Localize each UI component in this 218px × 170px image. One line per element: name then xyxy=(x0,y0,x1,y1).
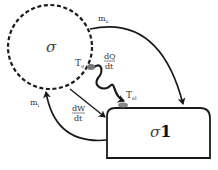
system-temperature-contact xyxy=(87,64,95,70)
svg-text:dQ: dQ xyxy=(104,52,116,61)
subsystem-index: 1 xyxy=(160,122,171,141)
heat-rate-label: dQ dt xyxy=(104,52,116,71)
thermodynamic-system-diagram: σ σ1 mo mi dQ dt dW dt Tσ Tel xyxy=(0,0,218,170)
mass-out-label: mo xyxy=(98,14,109,24)
svg-text:dt: dt xyxy=(105,62,114,71)
system-label: σ xyxy=(46,38,57,56)
subsystem-label: σ1 xyxy=(150,122,171,141)
electrode-temperature-contact xyxy=(118,103,128,108)
electrode-temperature-label: Tel xyxy=(126,90,137,101)
mass-out-arrow xyxy=(90,27,183,104)
svg-text:dt: dt xyxy=(74,114,83,123)
mass-in-label: mi xyxy=(30,98,40,108)
svg-text:dW: dW xyxy=(72,104,86,113)
system-temperature-label: Tσ xyxy=(75,58,85,69)
work-rate-label: dW dt xyxy=(72,104,86,123)
